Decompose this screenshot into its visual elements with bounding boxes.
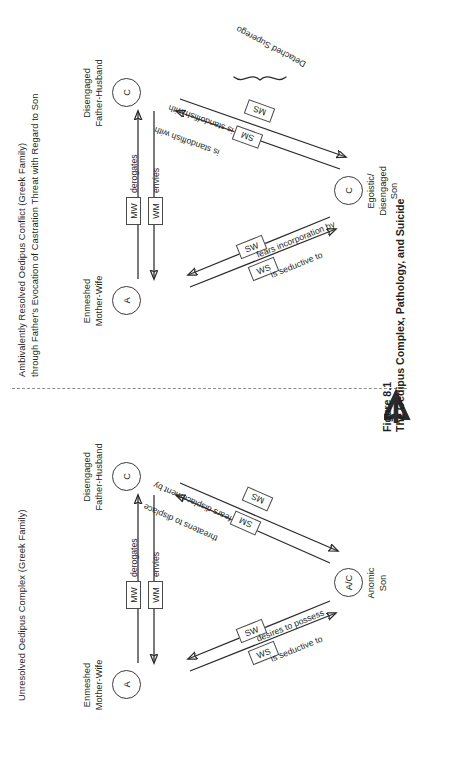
figure-page: Unresolved Oedipus Complex (Greek Family…	[0, 0, 449, 763]
figure-number: Figure 8.1	[381, 192, 394, 432]
caption-layer: Figure 8.1 The Oedipus Complex, Patholog…	[0, 0, 449, 763]
figure-caption: Figure 8.1 The Oedipus Complex, Patholog…	[381, 192, 407, 432]
figure-caption-text: The Oedipus Complex, Pathology, and Suic…	[394, 192, 407, 432]
